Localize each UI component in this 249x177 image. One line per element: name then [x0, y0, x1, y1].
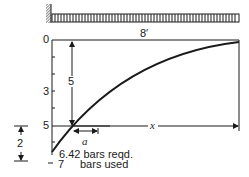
- beam: [52, 14, 239, 22]
- bars-used-value: 7: [58, 159, 64, 170]
- axis-label-0: 0: [43, 34, 49, 45]
- dimension-x-label: x: [150, 120, 155, 131]
- bar-requirement-curve: [52, 42, 239, 152]
- axis-label-3: 3: [43, 86, 49, 97]
- bars-used-label: bars used: [80, 159, 128, 170]
- axis-label-5: 5: [43, 120, 49, 131]
- fixed-wall-icon: [46, 4, 51, 23]
- diagram-canvas: 0 8′ 3 5 5 a x 2 6.42 bars reqd. 7 bars …: [0, 0, 249, 177]
- dimension-a: [74, 128, 98, 134]
- dimension-5-label: 5: [68, 76, 74, 87]
- axes: [52, 40, 239, 155]
- span-label: 8′: [140, 28, 148, 39]
- dimension-2-label: 2: [17, 138, 23, 149]
- dimension-a-label: a: [82, 136, 88, 147]
